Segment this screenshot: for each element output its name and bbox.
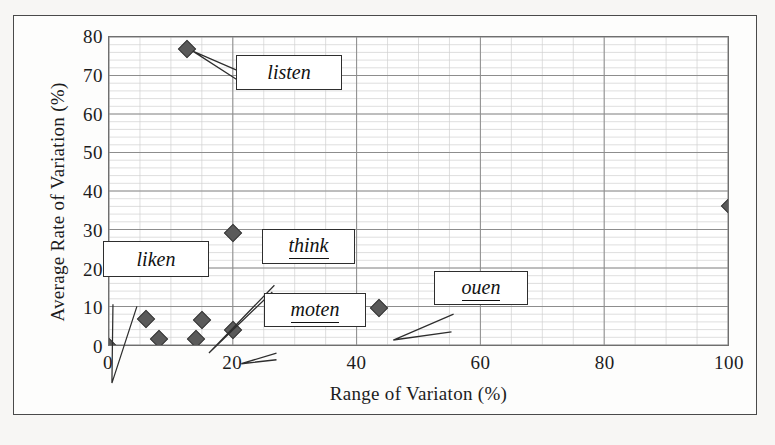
y-axis-title: Average Rate of Variation (%) (47, 32, 69, 372)
x-tick-label: 20 (202, 353, 262, 372)
callout-moten-label: moten (291, 298, 340, 323)
plot-area (108, 36, 729, 346)
x-tick-label: 0 (78, 353, 138, 372)
x-tick-label: 80 (575, 353, 635, 372)
x-tick-label: 100 (699, 353, 759, 372)
callout-ouen-label: ouen (462, 276, 501, 301)
callout-liken-label: liken (137, 248, 176, 271)
callout-liken[interactable]: liken (103, 241, 209, 277)
callout-listen[interactable]: listen (236, 55, 342, 90)
callout-think-label: think (289, 234, 329, 259)
figure-canvas: 01020304050607080 020406080100 Range of … (0, 0, 775, 445)
callout-moten[interactable]: moten (264, 293, 366, 327)
gridlines (109, 37, 728, 345)
callout-listen-label: listen (267, 61, 310, 84)
callout-think[interactable]: think (262, 229, 355, 264)
x-axis-tick-labels: 020406080100 (108, 353, 729, 381)
x-tick-label: 60 (451, 353, 511, 372)
x-tick-label: 40 (326, 353, 386, 372)
callout-ouen[interactable]: ouen (434, 271, 528, 305)
figure-border: 01020304050607080 020406080100 Range of … (13, 15, 757, 415)
x-axis-title: Range of Variaton (%) (108, 383, 729, 405)
